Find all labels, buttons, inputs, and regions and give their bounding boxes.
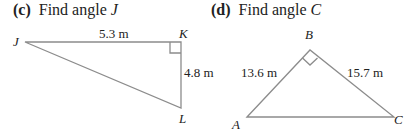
vertex-c-label: C [394,112,403,128]
right-angle-marker-k [170,42,181,53]
side-kl-length: 4.8 m [184,65,214,81]
vertex-l-label: L [179,111,186,127]
problem-c-tag: (c) [13,1,31,18]
problem-d-heading: (d)Find angle C [211,1,321,19]
problem-c-prompt: Find angle [39,1,107,18]
triangle-abc [247,50,394,117]
problem-c-target: J [111,1,118,18]
problem-d-target: C [311,1,322,18]
side-bc-length: 15.7 m [347,65,383,81]
vertex-b-label: B [305,27,313,43]
vertex-a-label: A [232,117,240,133]
problem-d-tag: (d) [211,1,231,18]
problem-c-heading: (c)Find angle J [13,1,118,19]
side-ab-length: 13.6 m [241,65,277,81]
right-angle-marker-b [303,58,318,65]
vertex-j-label: J [13,34,19,50]
triangle-jkl [25,42,181,108]
vertex-k-label: K [179,26,188,42]
problem-d-prompt: Find angle [239,1,307,18]
side-jk-length: 5.3 m [99,26,129,42]
